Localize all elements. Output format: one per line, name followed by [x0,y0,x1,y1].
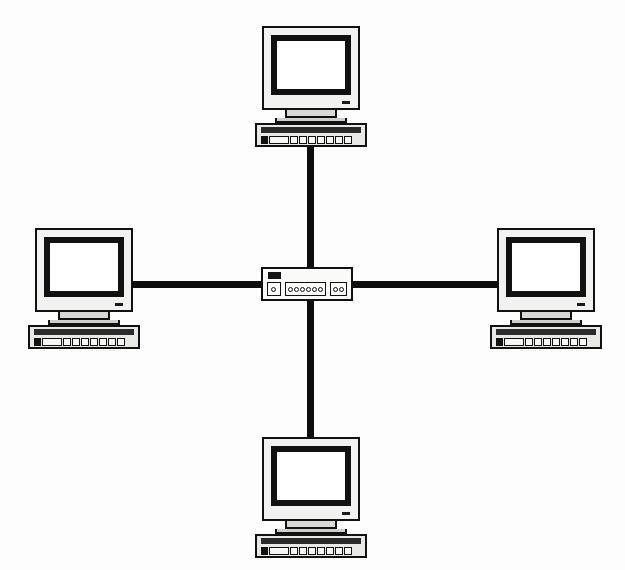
keyboard-spacebar [42,338,62,346]
monitor-stand [58,312,110,320]
keyboard-logo-icon [261,136,268,144]
workstation-top[interactable] [255,26,367,147]
keyboard-key [72,338,80,346]
monitor-screen [512,243,580,291]
keyboard-key [534,338,542,346]
keyboard-logo-icon [261,547,268,555]
keyboard-top-strip [261,127,361,133]
monitor-screen [277,452,345,500]
keyboard-top-strip [261,538,361,544]
monitor [35,228,133,312]
hub-port-area [267,282,347,296]
keyboard-key [317,136,325,144]
port-icon [294,287,299,292]
keyboard[interactable] [255,123,367,147]
monitor-bezel [271,446,351,506]
keyboard-key [326,136,334,144]
keyboard-key [308,547,316,555]
keyboard-logo-icon [496,338,503,346]
cable-top [307,130,314,275]
keyboard[interactable] [490,325,602,349]
keyboard-key [108,338,116,346]
brand-mark-icon [342,512,350,515]
keyboard-key [326,547,334,555]
port-icon [333,287,338,292]
keyboard-key [290,136,298,144]
keyboard-key [335,547,343,555]
main-port-group[interactable] [285,282,326,296]
aux-port-group[interactable] [330,282,347,296]
keyboard-key [543,338,551,346]
status-led-icon [268,272,281,279]
keyboard-spacebar [269,547,289,555]
port-icon [339,287,344,292]
monitor-stand [285,110,337,118]
keyboard-key-row [32,337,136,347]
monitor-bezel [271,35,351,95]
brand-mark-icon [342,101,350,104]
keyboard-key [561,338,569,346]
monitor-bezel [44,237,124,297]
keyboard-key [570,338,578,346]
keyboard-spacebar [269,136,289,144]
port-icon [312,287,317,292]
monitor [262,437,360,521]
keyboard-key [117,338,125,346]
port-icon [288,287,293,292]
keyboard-top-strip [496,329,596,335]
keyboard-key [63,338,71,346]
keyboard-key [525,338,533,346]
monitor [497,228,595,312]
keyboard-key [299,136,307,144]
brand-mark-icon [577,303,585,306]
keyboard-key [90,338,98,346]
monitor-stand [520,312,572,320]
keyboard-key [99,338,107,346]
workstation-left[interactable] [28,228,140,349]
keyboard-key [344,136,352,144]
keyboard-key [317,547,325,555]
monitor-screen [50,243,118,291]
keyboard-key [299,547,307,555]
port-icon [318,287,323,292]
keyboard-spacebar [504,338,524,346]
keyboard[interactable] [255,534,367,558]
keyboard-top-strip [34,329,134,335]
monitor-screen [277,41,345,89]
network-hub[interactable] [261,267,353,301]
port-icon [306,287,311,292]
cable-right [349,281,497,288]
keyboard-key [579,338,587,346]
monitor-bezel [506,237,586,297]
workstation-right[interactable] [490,228,602,349]
keyboard-key-row [494,337,598,347]
keyboard-key [344,547,352,555]
keyboard-key-row [259,546,363,556]
cable-bottom [307,294,314,444]
port-icon [300,287,305,292]
keyboard-key [335,136,343,144]
keyboard[interactable] [28,325,140,349]
monitor [262,26,360,110]
network-topology-diagram [0,0,625,570]
brand-mark-icon [115,303,123,306]
port-icon [271,287,276,292]
keyboard-key [290,547,298,555]
keyboard-key-row [259,135,363,145]
monitor-stand [285,521,337,529]
keyboard-logo-icon [34,338,41,346]
workstation-bottom[interactable] [255,437,367,558]
cable-left [118,281,266,288]
uplink-port-group[interactable] [267,282,281,296]
keyboard-key [552,338,560,346]
keyboard-key [308,136,316,144]
keyboard-key [81,338,89,346]
